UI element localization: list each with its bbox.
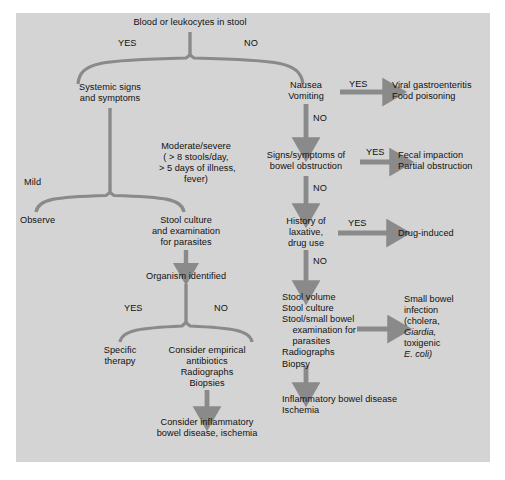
- node-ibd-ischemia: Inflammatory bowel disease Ischemia: [282, 394, 397, 416]
- label-laxative-no: NO: [313, 256, 327, 267]
- brace-root: [78, 55, 303, 84]
- node-nausea-vomiting: Nausea Vomiting: [288, 80, 324, 102]
- node-stool-culture: Stool culture and examination for parasi…: [152, 215, 220, 248]
- node-moderate-severe: Moderate/severe ( > 8 stools/day, > 5 da…: [156, 141, 235, 185]
- brace-severity: [36, 193, 184, 213]
- label-nausea-yes: YES: [349, 79, 368, 90]
- label-root-yes: YES: [118, 38, 137, 49]
- node-organism-identified: Organism identified: [146, 271, 226, 282]
- label-nausea-no: NO: [313, 113, 327, 124]
- node-viral-gastroenteritis: Viral gastroenteritis Food poisoning: [392, 80, 472, 102]
- node-workup-list: Stool volume Stool culture Stool/small b…: [282, 292, 356, 370]
- node-small-bowel-line5: toxigenic: [404, 338, 440, 349]
- node-drug-induced: Drug-induced: [398, 228, 454, 239]
- node-small-bowel-line3: (cholera,: [404, 316, 440, 327]
- flowchart-root: Blood or leukocytes in stool YES NO Syst…: [0, 0, 505, 480]
- brace-organism: [120, 323, 252, 343]
- flowchart-connectors: [0, 0, 505, 480]
- label-obstruction-yes: YES: [366, 147, 385, 158]
- node-systemic-signs: Systemic signs and symptoms: [79, 82, 141, 104]
- node-specific-therapy: Specific therapy: [104, 345, 137, 367]
- node-laxative-history: History of laxative, drug use: [286, 216, 325, 249]
- node-small-bowel-line1: Small bowel: [404, 294, 454, 305]
- label-organism-yes: YES: [124, 303, 143, 314]
- node-observe: Observe: [20, 215, 55, 226]
- node-fecal-impaction: Fecal impaction Partial obstruction: [398, 150, 473, 172]
- node-consider-ibd: Consider inflammatory bowel disease, isc…: [157, 417, 258, 439]
- node-bowel-obstruction: Signs/symptoms of bowel obstruction: [267, 150, 345, 172]
- label-root-no: NO: [244, 38, 258, 49]
- label-laxative-yes: YES: [348, 218, 367, 229]
- label-organism-no: NO: [214, 303, 228, 314]
- node-root-label: Blood or leukocytes in stool: [133, 17, 246, 28]
- node-small-bowel-line2: infection: [404, 305, 438, 316]
- node-consider-empirical: Consider empirical antibiotics Radiograp…: [169, 345, 246, 389]
- label-obstruction-no: NO: [313, 183, 327, 194]
- node-small-bowel-ecoli: E. coli): [404, 349, 432, 360]
- node-small-bowel-giardia: Giardia,: [404, 327, 436, 338]
- label-mild: Mild: [24, 177, 41, 188]
